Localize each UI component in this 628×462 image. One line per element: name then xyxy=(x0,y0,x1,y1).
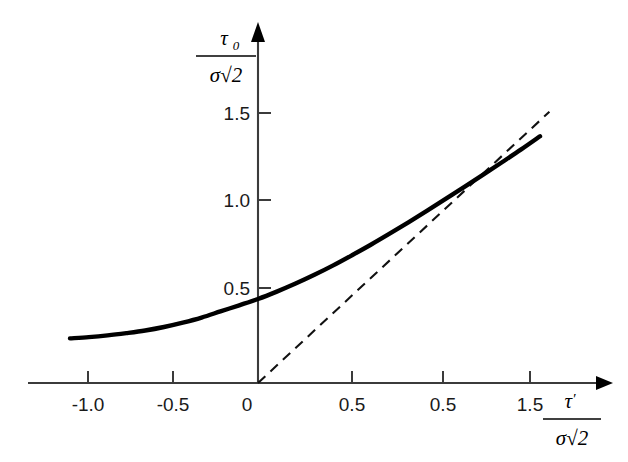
y-axis-title-numerator-subscript: 0 xyxy=(233,38,240,53)
x-tick-label: 1.5 xyxy=(517,394,543,415)
x-tick-label: -1.0 xyxy=(72,394,105,415)
x-tick-label: 0 xyxy=(242,394,253,415)
y-axis-title-denominator: σ√2 xyxy=(210,63,243,87)
x-tick-label: 0.5 xyxy=(430,394,456,415)
x-axis-title-denominator: σ√2 xyxy=(556,426,589,450)
x-tick-label: 0.5 xyxy=(339,394,365,415)
x-tick-label: -0.5 xyxy=(157,394,190,415)
chart-figure: -1.0 -0.5 0 0.5 0.5 1.5 0.5 1.0 1.5 τ 0 xyxy=(0,0,628,462)
y-tick-label: 1.0 xyxy=(224,190,250,211)
y-tick-label: 0.5 xyxy=(224,278,250,299)
chart-background xyxy=(0,0,628,462)
chart-canvas: -1.0 -0.5 0 0.5 0.5 1.5 0.5 1.0 1.5 τ 0 xyxy=(0,0,628,462)
y-tick-label: 1.5 xyxy=(224,103,250,124)
